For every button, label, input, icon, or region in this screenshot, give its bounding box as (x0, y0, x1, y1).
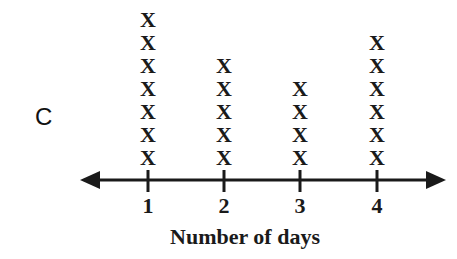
tick-label-1: 1 (136, 193, 160, 219)
x-mark: X (288, 147, 312, 169)
tick-label-2: 2 (212, 193, 236, 219)
x-mark: X (288, 101, 312, 123)
x-mark: X (212, 147, 236, 169)
x-mark: X (136, 147, 160, 169)
left-arrow-icon (80, 171, 100, 189)
right-arrow-icon (426, 171, 446, 189)
x-mark: X (136, 78, 160, 100)
x-mark: X (365, 32, 389, 54)
tick-label-4: 4 (365, 193, 389, 219)
x-mark: X (365, 55, 389, 77)
x-mark: X (365, 124, 389, 146)
x-mark: X (136, 9, 160, 31)
x-mark: X (136, 55, 160, 77)
x-mark: X (365, 101, 389, 123)
x-mark: X (136, 101, 160, 123)
x-mark: X (288, 124, 312, 146)
x-axis-label: Number of days (0, 224, 457, 250)
x-mark: X (288, 78, 312, 100)
tick-label-3: 3 (288, 193, 312, 219)
x-mark: X (212, 78, 236, 100)
x-mark: X (136, 32, 160, 54)
x-mark: X (212, 124, 236, 146)
x-mark: X (365, 147, 389, 169)
x-mark: X (365, 78, 389, 100)
x-mark: X (212, 101, 236, 123)
x-mark: X (136, 124, 160, 146)
x-mark: X (212, 55, 236, 77)
